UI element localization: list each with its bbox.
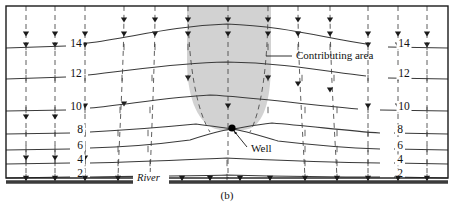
contributing-area-region [187, 6, 271, 131]
contour-label-left-2: 2 [77, 167, 83, 179]
contour-label-left-4: 4 [77, 153, 83, 165]
contour-label-right-8: 8 [397, 123, 403, 135]
contour-label-left-8: 8 [77, 123, 83, 135]
well-marker[interactable] [228, 124, 235, 131]
contour-label-left-14: 14 [70, 37, 82, 49]
river-label: River [136, 172, 161, 183]
contour-label-right-12: 12 [398, 67, 410, 79]
contour-label-right-4: 4 [397, 153, 403, 165]
groundwater-contour-figure: 1412108642 1412108642 Well Contributing … [0, 0, 454, 203]
contour-label-left-10: 10 [70, 100, 82, 112]
contour-label-left-6: 6 [77, 139, 83, 151]
figure-caption: (b) [221, 189, 234, 202]
contour-label-right-6: 6 [397, 139, 403, 151]
contour-label-right-14: 14 [398, 37, 410, 49]
well-label: Well [251, 142, 272, 154]
contributing-area-label: Contributing area [296, 49, 373, 61]
contour-label-left-12: 12 [70, 67, 82, 79]
contour-label-right-10: 10 [398, 100, 410, 112]
contour-map-svg: 1412108642 1412108642 Well Contributing … [0, 0, 454, 203]
